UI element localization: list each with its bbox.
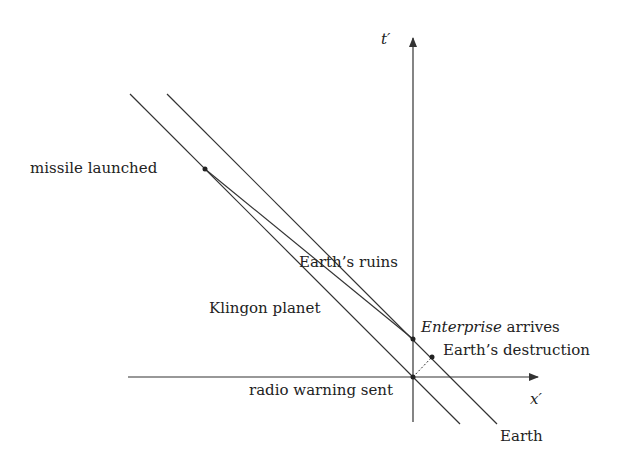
missile-launched-label: missile launched	[30, 161, 157, 176]
arrives-text: arrives	[502, 318, 560, 336]
klingon-planet-label-text: Klingon planet	[209, 301, 320, 316]
earths-ruins-label: Earth’s ruins	[299, 255, 398, 270]
diagram-canvas	[0, 0, 640, 472]
x-axis-label: x′	[530, 392, 542, 407]
missile-launched-dot	[203, 167, 208, 172]
enterprise-name: Enterprise	[421, 318, 502, 336]
earth-destruction-dot	[430, 355, 435, 360]
radio-warning-label: radio warning sent	[249, 383, 393, 398]
radio-warning-dot	[411, 375, 416, 380]
klingon-worldline	[130, 94, 460, 424]
earth-label: Earth	[500, 429, 543, 444]
radio-signal-path	[413, 357, 432, 377]
enterprise-arrives-dot	[411, 337, 416, 342]
spacetime-diagram: t′ x′ missile launched Earth’s ruins Kli…	[0, 0, 640, 472]
enterprise-arrives-label: Enterprise arrives	[421, 320, 560, 335]
t-axis-label: t′	[381, 32, 390, 47]
earths-destruction-label: Earth’s destruction	[443, 343, 590, 358]
